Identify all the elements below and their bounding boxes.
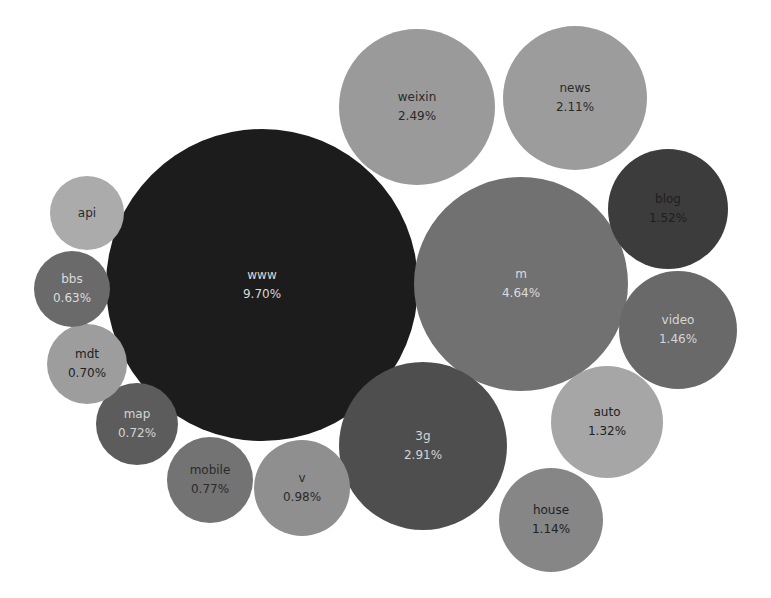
- bubble-value: 0.70%: [68, 366, 106, 380]
- bubble-name: m: [515, 267, 527, 281]
- bubble-house: house1.14%: [499, 468, 603, 572]
- bubble-circle: [34, 251, 110, 327]
- bubble-api: api: [50, 176, 124, 250]
- bubble-auto: auto1.32%: [551, 366, 663, 478]
- bubble-weixin: weixin2.49%: [339, 29, 495, 185]
- bubble-3g: 3g2.91%: [339, 362, 507, 530]
- bubble-v: v0.98%: [254, 440, 350, 536]
- bubble-value: 4.64%: [502, 286, 540, 300]
- bubble-name: news: [559, 81, 590, 95]
- bubble-value: 1.46%: [659, 332, 697, 346]
- bubble-circle: [167, 437, 253, 523]
- bubble-circle: [503, 26, 647, 170]
- bubble-mobile: mobile0.77%: [167, 437, 253, 523]
- bubble-video: video1.46%: [619, 271, 737, 389]
- bubble-name: mobile: [190, 463, 231, 477]
- bubble-name: www: [247, 268, 277, 282]
- bubble-chart: www9.70%m4.64%3g2.91%weixin2.49%news2.11…: [0, 0, 771, 598]
- bubble-value: 0.77%: [191, 482, 229, 496]
- bubble-circle: [339, 29, 495, 185]
- bubble-m: m4.64%: [414, 177, 628, 391]
- bubble-name: v: [298, 471, 305, 485]
- bubble-name: bbs: [61, 272, 83, 286]
- bubble-value: 1.52%: [649, 211, 687, 225]
- bubble-value: 1.32%: [588, 424, 626, 438]
- bubble-circle: [499, 468, 603, 572]
- bubble-value: 0.63%: [53, 291, 91, 305]
- bubble-circle: [254, 440, 350, 536]
- bubble-circle: [47, 324, 127, 404]
- bubble-bbs: bbs0.63%: [34, 251, 110, 327]
- bubble-value: 2.91%: [404, 448, 442, 462]
- bubble-circle: [608, 149, 728, 269]
- bubble-value: 2.11%: [556, 100, 594, 114]
- bubble-value: 9.70%: [243, 287, 281, 301]
- bubble-name: blog: [655, 192, 681, 206]
- bubble-circle: [551, 366, 663, 478]
- bubble-mdt: mdt0.70%: [47, 324, 127, 404]
- bubble-name: video: [662, 313, 695, 327]
- bubble-value: 1.14%: [532, 522, 570, 536]
- bubble-name: mdt: [75, 347, 99, 361]
- bubble-name: 3g: [415, 429, 430, 443]
- bubble-circle: [619, 271, 737, 389]
- bubble-news: news2.11%: [503, 26, 647, 170]
- bubble-name: house: [533, 503, 569, 517]
- bubble-name: weixin: [398, 90, 437, 104]
- bubble-name: api: [78, 206, 96, 220]
- bubble-name: map: [124, 407, 151, 421]
- bubble-blog: blog1.52%: [608, 149, 728, 269]
- bubble-circle: [339, 362, 507, 530]
- bubble-value: 2.49%: [398, 109, 436, 123]
- bubble-value: 0.72%: [118, 426, 156, 440]
- bubble-name: auto: [593, 405, 620, 419]
- bubble-value: 0.98%: [283, 490, 321, 504]
- bubble-circle: [414, 177, 628, 391]
